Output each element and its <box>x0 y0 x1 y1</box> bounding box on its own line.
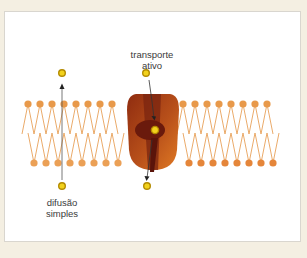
molecule-diffusion-top <box>59 70 66 77</box>
simple-diffusion-label: difusão simples <box>36 197 88 219</box>
active-transport-label-line2: ativo <box>122 60 182 71</box>
molecule-active-bound <box>151 126 158 133</box>
lipid-bilayer-right <box>177 104 279 163</box>
arrowhead-up-icon <box>60 84 65 90</box>
active-transport-label: transporte ativo <box>122 49 182 71</box>
membrane-diagram <box>0 0 307 258</box>
molecule-diffusion-bottom <box>59 183 66 190</box>
simple-diffusion-label-line2: simples <box>36 208 88 219</box>
active-transport-label-line1: transporte <box>122 49 182 60</box>
simple-diffusion-label-line1: difusão <box>36 197 88 208</box>
arrowhead-down-icon <box>145 176 150 181</box>
lipid-bilayer-left <box>22 104 124 163</box>
molecule-active-bottom <box>144 183 151 190</box>
